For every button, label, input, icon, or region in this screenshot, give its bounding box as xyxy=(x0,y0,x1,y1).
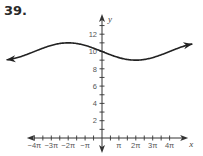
y-axis-label: y xyxy=(107,14,112,24)
x-tick-label: 2π xyxy=(131,141,140,150)
x-tick-label: −π xyxy=(80,141,90,150)
x-tick-label: π xyxy=(116,141,121,150)
x-tick-label: −4π xyxy=(28,141,42,150)
y-tick-label: 8 xyxy=(93,65,97,74)
x-tick-label: 4π xyxy=(165,141,174,150)
x-tick-label: −3π xyxy=(44,141,58,150)
chart: −4π−3π−2π−ππ2π3π4π24681012xy xyxy=(0,0,203,156)
y-tick-label: 6 xyxy=(93,82,97,91)
y-tick-label: 4 xyxy=(93,99,97,108)
x-axis-label: x xyxy=(188,139,193,149)
x-tick-label: 3π xyxy=(148,141,157,150)
y-tick-label: 2 xyxy=(93,116,97,125)
y-tick-label: 12 xyxy=(89,30,97,39)
curve-line xyxy=(7,43,193,60)
x-tick-label: −2π xyxy=(61,141,75,150)
